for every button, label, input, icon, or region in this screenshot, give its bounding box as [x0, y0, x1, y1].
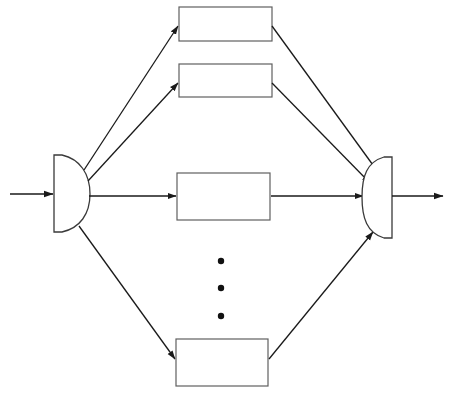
combiner-shape: [362, 157, 392, 238]
branch-box-n[interactable]: [176, 339, 268, 386]
link-splitter-to-branch-n: [79, 226, 175, 359]
branch-box-2[interactable]: [179, 64, 272, 97]
link-branch-2-to-combiner: [272, 83, 370, 183]
link-branch-n-to-combiner: [269, 232, 373, 359]
block-diagram: [0, 0, 451, 398]
link-splitter-to-branch-2: [88, 83, 178, 181]
branch-box-1[interactable]: [179, 7, 272, 41]
ellipsis-dot-1: [218, 258, 224, 264]
splitter-shape: [54, 155, 90, 232]
ellipsis-dot-2: [218, 285, 224, 291]
branch-box-3[interactable]: [177, 173, 270, 220]
vertical-ellipsis: [218, 258, 224, 319]
ellipsis-dot-3: [218, 313, 224, 319]
diagram-canvas: [0, 0, 451, 398]
